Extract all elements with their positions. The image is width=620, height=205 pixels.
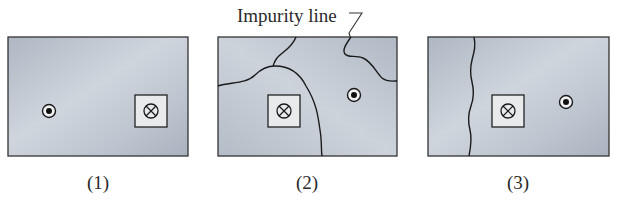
panel-2: [218, 37, 397, 156]
panel-1: [8, 37, 188, 156]
panel-1-caption: (1): [87, 172, 109, 194]
impurity-line-leader: [349, 13, 362, 40]
panel-2-frame: [218, 37, 397, 156]
panel-3: [428, 37, 609, 156]
impurity-line-figure: Impurity line: [0, 0, 620, 205]
panel-2-caption: (2): [296, 172, 318, 194]
dot-out-of-page-icon: [43, 105, 56, 118]
panel-3-caption: (3): [507, 172, 529, 194]
dot-out-of-page-icon: [348, 89, 361, 102]
impurity-line-label: Impurity line: [237, 5, 337, 26]
dot-out-of-page-icon: [560, 96, 573, 109]
